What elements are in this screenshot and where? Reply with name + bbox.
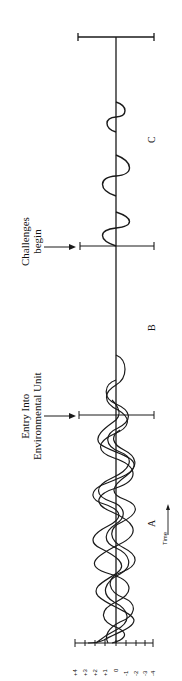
scale-tick-label: -2 [133, 671, 139, 676]
challenges-marker-bar [80, 242, 154, 250]
scale-tick-label: +3 [82, 669, 88, 676]
scale-tick-label: 0 [113, 669, 119, 672]
oscillation-diagram: Challenges begin Entry Into Environmenta… [0, 0, 182, 681]
scale-bar [75, 639, 153, 647]
entry-arrow-icon [44, 413, 76, 419]
region-a-oscillations [88, 355, 135, 643]
scale-tick-label: -1 [123, 671, 129, 676]
scale-tick-label: +1 [102, 669, 108, 676]
time-arrow-icon [166, 504, 170, 535]
time-label: Time [162, 532, 168, 545]
region-label-b: B [147, 324, 158, 331]
challenges-label-line2: begin [32, 217, 44, 266]
diagram-canvas [0, 0, 182, 681]
scale-tick-label: +2 [92, 669, 98, 676]
entry-label-line2: Environmental Unit [32, 372, 44, 460]
challenges-label-line1: Challenges [20, 217, 32, 266]
scale-tick-label: -4 [150, 671, 156, 676]
region-label-a: A [147, 520, 158, 527]
scale-tick-label: +4 [72, 669, 78, 676]
scale-tick-label: -3 [142, 671, 148, 676]
challenges-arrow-icon [44, 244, 76, 250]
entry-label: Entry Into Environmental Unit [20, 372, 43, 460]
region-label-c: C [147, 136, 158, 143]
challenges-label: Challenges begin [20, 217, 43, 266]
entry-label-line1: Entry Into [20, 372, 32, 460]
